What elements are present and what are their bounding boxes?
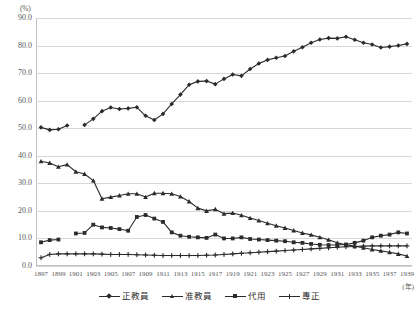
x-axis-tick-label: 1939 [396,270,418,278]
legend-item-3[interactable]: 專正 [279,292,320,301]
legend-item-0[interactable]: 正教員 [99,292,149,301]
y-axis-tick-label: 20.0 [0,207,32,215]
legend-label: 專正 [302,292,320,301]
series-3 [39,243,410,260]
legend-item-2[interactable]: 代用 [225,292,266,301]
gridline [36,266,412,267]
y-axis-tick-label: 60.0 [0,97,32,105]
y-axis-tick-label: 0.0 [0,262,32,270]
line-chart: (%) 90.080.070.060.050.040.030.020.010.0… [0,0,418,315]
chart-legend: 正教員准教員代用專正 [0,292,418,301]
legend-label: 代用 [248,292,266,301]
y-axis-tick-label: 40.0 [0,152,32,160]
legend-item-1[interactable]: 准教員 [162,292,212,301]
legend-marker-diamond-icon [99,292,120,301]
y-axis-tick-label: 70.0 [0,69,32,77]
y-axis-tick-label: 30.0 [0,179,32,187]
y-axis-tick-label: 80.0 [0,42,32,50]
y-axis-unit-label: (%) [20,4,31,13]
series-layer [36,18,412,266]
legend-label: 准教員 [185,292,212,301]
legend-marker-triangle-icon [162,292,183,301]
series-2 [39,213,409,247]
y-axis-tick-label: 50.0 [0,124,32,132]
y-axis-tick-label: 10.0 [0,234,32,242]
x-axis-unit-label: (年) [402,281,414,291]
series-0 [39,34,410,132]
plot-area [36,18,412,266]
legend-marker-square-icon [225,292,246,301]
y-axis-tick-label: 90.0 [0,14,32,22]
legend-label: 正教員 [122,292,149,301]
legend-marker-plus-icon [279,292,300,301]
